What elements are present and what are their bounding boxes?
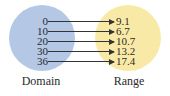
range-value: 17.4 (116, 56, 135, 67)
domain-label: Domain (18, 74, 64, 89)
domain-value: 36 (37, 56, 48, 67)
mapping-arrow (48, 41, 114, 42)
range-label: Range (106, 74, 152, 89)
mapping-arrow (48, 21, 114, 22)
mapping-arrow (48, 61, 114, 62)
mapping-arrow (48, 51, 114, 52)
mapping-arrow (48, 31, 114, 32)
